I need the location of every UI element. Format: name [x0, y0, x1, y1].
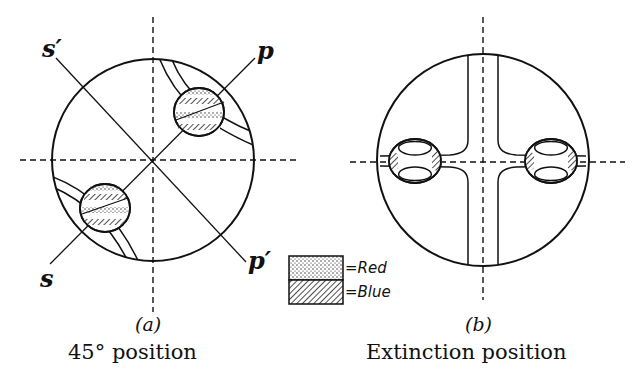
axis-label-p: p — [257, 36, 274, 65]
blue-swatch — [289, 280, 343, 304]
melatope-upper-right — [174, 88, 224, 136]
melatope-right — [525, 139, 578, 183]
axis-label-p-prime: p′ — [248, 246, 271, 275]
figure-drawing — [0, 0, 638, 379]
panel-b-caption: Extinction position — [366, 340, 567, 364]
legend-swatches — [289, 256, 343, 304]
panel-a-label: (a) — [135, 313, 161, 335]
red-swatch — [289, 256, 343, 280]
legend-red-label: =Red — [345, 259, 387, 277]
panel-b-label: (b) — [465, 313, 492, 335]
panel-b-drawing — [350, 17, 625, 300]
melatope-left — [389, 139, 442, 183]
legend-blue-label: =Blue — [345, 283, 391, 301]
axis-label-s: s — [40, 264, 54, 293]
melatope-lower-left — [80, 184, 130, 232]
panel-a-caption: 45° position — [68, 340, 197, 364]
interference-figure: s′ p s p′ (a) 45° position =Red =Blue (b… — [0, 0, 638, 379]
axis-label-s-prime: s′ — [42, 34, 62, 63]
